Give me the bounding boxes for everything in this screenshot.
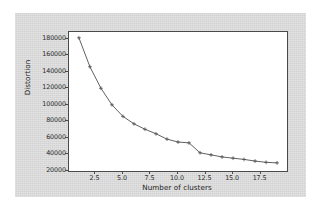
- x-tick-label: 5.0: [117, 174, 127, 182]
- x-tick-label: 10.0: [170, 174, 184, 182]
- x-tick-label: 15.0: [225, 174, 239, 182]
- y-tick-label: 60000: [46, 133, 66, 141]
- x-tick-mark: [94, 171, 95, 174]
- y-tick-mark: [65, 87, 68, 88]
- chart-figure: 2000040000600008000010000012000014000016…: [15, 13, 306, 197]
- data-point-marker: [165, 137, 169, 141]
- y-tick-mark: [65, 104, 68, 105]
- y-axis-title: Distortion: [23, 48, 32, 108]
- data-point-marker: [77, 36, 81, 40]
- y-tick-label: 160000: [42, 50, 66, 58]
- x-tick-mark: [122, 171, 123, 174]
- data-point-marker: [242, 158, 246, 162]
- distortion-line: [79, 38, 277, 163]
- y-tick-mark: [65, 120, 68, 121]
- data-point-marker: [231, 156, 235, 160]
- data-point-marker: [275, 161, 279, 165]
- y-tick-label: 40000: [46, 149, 66, 157]
- x-tick-label: 12.5: [198, 174, 212, 182]
- data-point-marker: [253, 159, 257, 163]
- data-point-marker: [209, 153, 213, 157]
- y-tick-mark: [65, 153, 68, 154]
- x-tick-mark: [260, 171, 261, 174]
- x-tick-mark: [205, 171, 206, 174]
- y-tick-label: 120000: [42, 83, 66, 91]
- y-tick-mark: [65, 54, 68, 55]
- y-tick-label: 140000: [42, 67, 66, 75]
- y-tick-mark: [65, 38, 68, 39]
- data-point-marker: [154, 132, 158, 136]
- data-point-marker: [88, 65, 92, 69]
- x-tick-label: 17.5: [253, 174, 267, 182]
- x-tick-mark: [177, 171, 178, 174]
- line-chart-svg: [69, 32, 287, 171]
- y-tick-mark: [65, 137, 68, 138]
- y-tick-label: 100000: [42, 100, 66, 108]
- y-tick-label: 80000: [46, 116, 66, 124]
- data-point-marker: [143, 127, 147, 131]
- x-axis-title: Number of clusters: [68, 183, 286, 192]
- distortion-series: [77, 36, 279, 165]
- y-tick-mark: [65, 71, 68, 72]
- data-point-marker: [264, 160, 268, 164]
- plot-area: [68, 31, 288, 172]
- data-point-marker: [176, 140, 180, 144]
- figure-page: 2000040000600008000010000012000014000016…: [0, 0, 323, 210]
- x-tick-mark: [149, 171, 150, 174]
- x-tick-label: 2.5: [89, 174, 99, 182]
- x-tick-mark: [232, 171, 233, 174]
- data-point-marker: [220, 155, 224, 159]
- y-tick-label: 180000: [42, 34, 66, 42]
- y-tick-label: 20000: [46, 166, 66, 174]
- x-tick-label: 7.5: [145, 174, 155, 182]
- y-tick-mark: [65, 170, 68, 171]
